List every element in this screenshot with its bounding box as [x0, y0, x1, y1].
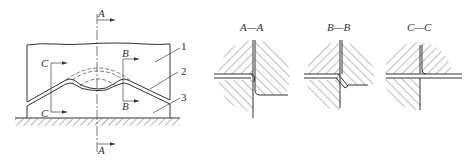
section-marker-B-bottom: B [122, 100, 129, 112]
section-marker-C-bottom: C [41, 107, 49, 119]
main-view: A A C C B B 1 2 3 [15, 7, 187, 156]
die-diagram: A A C C B B 1 2 3 A—A [0, 0, 475, 164]
section-title-B-B: B—B [327, 21, 351, 33]
leader-1 [155, 48, 180, 62]
section-C-C: C—C [384, 21, 462, 119]
upper-die-outline [27, 43, 170, 102]
section-title-C-C: C—C [407, 21, 432, 33]
section-marker-A-top: A [97, 7, 105, 19]
section-marker-A-bottom: A [97, 144, 105, 156]
leader-3 [153, 98, 180, 113]
ground-hatch [15, 119, 180, 126]
section-B-B: B—B [300, 21, 380, 120]
leader-2 [150, 72, 178, 89]
section-A-A: A—A [212, 21, 300, 120]
part-label-1: 1 [181, 40, 187, 52]
part-label-3: 3 [181, 91, 187, 103]
lower-die-outline [27, 104, 170, 118]
formed-arc-inner [80, 79, 116, 86]
formed-arc-outer [66, 68, 130, 80]
section-marker-C-top: C [41, 57, 49, 69]
section-marker-B-top: B [122, 47, 129, 59]
part-label-2: 2 [181, 65, 187, 77]
section-title-A-A: A—A [239, 21, 264, 33]
sheet-lower-line [27, 83, 170, 106]
